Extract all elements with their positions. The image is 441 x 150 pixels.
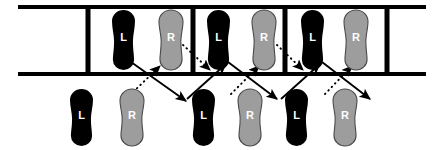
right-foot-shape (344, 10, 368, 70)
diagram-canvas: LRLRLRLRLRLR (0, 0, 441, 150)
left-foot-shape (112, 10, 135, 70)
footprint-top-l-1: L (112, 10, 135, 70)
footprint-top-r-1: R (159, 10, 183, 70)
ladder-rung-2 (191, 5, 196, 76)
ladder-drill-diagram: LRLRLRLRLRLR (0, 0, 441, 150)
ladder-rung-3 (283, 5, 288, 76)
footprint-top-l-2: L (207, 10, 230, 70)
right-foot-shape (120, 89, 144, 146)
footprint-bottom-r-1: R (120, 89, 144, 146)
footprint-bottom-r-3: R (333, 89, 357, 146)
ladder-rung-1 (86, 5, 91, 76)
ladder-rung-4 (385, 5, 390, 76)
ladder-rail-top (18, 5, 426, 9)
left-foot-shape (301, 10, 324, 70)
arrow-dotted (183, 45, 210, 70)
footprint-bottom-l-3: L (285, 89, 308, 146)
left-foot-shape (207, 10, 230, 70)
footprint-bottom-r-2: R (238, 89, 262, 146)
footprint-top-l-3: L (301, 10, 324, 70)
right-foot-shape (252, 10, 276, 70)
right-foot-shape (159, 10, 183, 70)
arrow-dotted (277, 45, 303, 70)
left-foot-shape (70, 89, 93, 146)
footprint-bottom-l-2: L (192, 89, 215, 146)
footprint-top-r-3: R (344, 10, 368, 70)
right-foot-shape (238, 89, 262, 146)
left-foot-shape (285, 89, 308, 146)
footprint-top-r-2: R (252, 10, 276, 70)
ladder-rail-bottom (18, 72, 426, 76)
left-foot-shape (192, 89, 215, 146)
footprint-bottom-l-1: L (70, 89, 93, 146)
footprints: LRLRLRLRLRLR (70, 10, 368, 146)
right-foot-shape (333, 89, 357, 146)
